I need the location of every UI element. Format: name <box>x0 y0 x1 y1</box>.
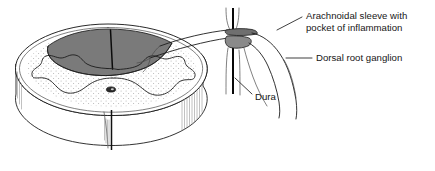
leader-dura <box>235 78 252 94</box>
leader-arachnoidal-sleeve <box>277 17 302 30</box>
label-dorsal-root-ganglion-text: Dorsal root ganglion <box>316 52 402 63</box>
central-canal <box>106 87 115 92</box>
label-dura-text: Dura <box>255 91 277 102</box>
label-arachnoidal-sleeve-line2: pocket of inflammation <box>306 22 402 33</box>
dorsal-root-ganglion-body <box>244 33 297 119</box>
label-dorsal-root-ganglion: Dorsal root ganglion <box>316 52 402 63</box>
label-arachnoidal-sleeve-line1: Arachnoidal sleeve with <box>306 10 407 21</box>
dura-sheath <box>226 8 240 95</box>
label-arachnoidal-sleeve: Arachnoidal sleeve with pocket of inflam… <box>306 10 407 33</box>
anatomy-illustration: Arachnoidal sleeve with pocket of inflam… <box>0 0 435 171</box>
label-dura: Dura <box>255 91 277 102</box>
figure-container: Arachnoidal sleeve with pocket of inflam… <box>0 0 435 171</box>
spinal-cord-disc <box>15 24 207 150</box>
